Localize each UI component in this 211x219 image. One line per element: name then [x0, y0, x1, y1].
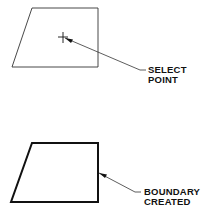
- select-point-leader: [65, 38, 146, 70]
- label-line-2: POINT: [148, 75, 187, 85]
- created-boundary: [11, 143, 98, 202]
- select-point-label: SELECT POINT: [148, 65, 187, 85]
- boundary-created-label: BOUNDARY CREATED: [144, 187, 200, 207]
- pick-cursor-icon: [58, 32, 68, 43]
- label-line-2: CREATED: [144, 197, 200, 207]
- region-outline: [12, 8, 98, 67]
- boundary-created-leader: [99, 173, 141, 192]
